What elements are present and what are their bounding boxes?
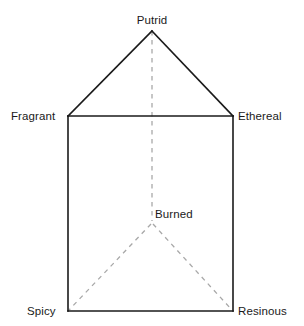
vertex-label-putrid: Putrid xyxy=(0,14,304,27)
vertex-label-burned: Burned xyxy=(155,208,193,221)
edge-burned-to-spicy xyxy=(69,224,151,310)
edge-burned-to-resinous xyxy=(153,224,232,310)
edge-putrid-to-ethereal xyxy=(152,31,233,116)
smell-prism-diagram: Putrid Fragrant Ethereal Spicy Resinous … xyxy=(0,0,304,326)
dashed-edges xyxy=(69,31,232,310)
vertex-label-resinous: Resinous xyxy=(238,305,287,318)
prism-drawing xyxy=(0,0,304,326)
vertex-label-ethereal: Ethereal xyxy=(238,110,282,123)
solid-edges xyxy=(68,31,233,311)
vertex-label-spicy: Spicy xyxy=(27,305,56,318)
vertex-label-fragrant: Fragrant xyxy=(11,110,55,123)
edge-fragrant-to-putrid xyxy=(68,31,152,116)
